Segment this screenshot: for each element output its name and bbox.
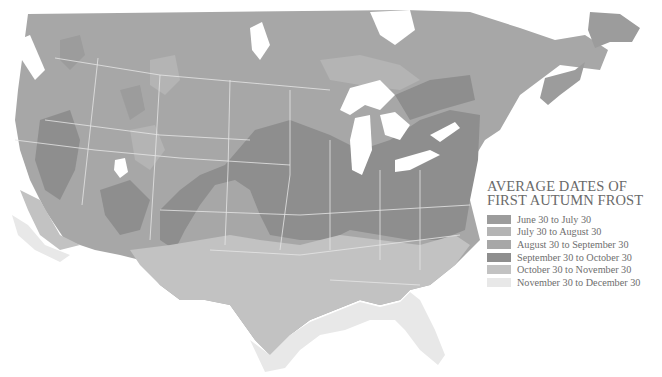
legend-swatch	[487, 265, 511, 274]
legend-title: AVERAGE DATES OF FIRST AUTUMN FROST	[487, 179, 662, 207]
legend-label: July 30 to August 30	[517, 226, 601, 237]
legend-swatch	[487, 278, 511, 287]
legend-label: August 30 to September 30	[517, 239, 629, 250]
legend-title-line1: AVERAGE DATES OF	[487, 179, 662, 193]
legend-item: June 30 to July 30	[487, 213, 662, 226]
legend-label: November 30 to December 30	[517, 277, 640, 288]
legend-item: October 30 to November 30	[487, 263, 662, 276]
legend-item: July 30 to August 30	[487, 226, 662, 239]
legend-swatch	[487, 253, 511, 262]
legend-item: November 30 to December 30	[487, 276, 662, 289]
legend-swatch	[487, 215, 511, 224]
legend-swatch	[487, 240, 511, 249]
legend-swatch	[487, 227, 511, 236]
legend: AVERAGE DATES OF FIRST AUTUMN FROST June…	[487, 179, 662, 289]
legend-label: October 30 to November 30	[517, 264, 631, 275]
legend-title-line2: FIRST AUTUMN FROST	[487, 193, 662, 207]
legend-item: September 30 to October 30	[487, 251, 662, 264]
legend-label: June 30 to July 30	[517, 214, 591, 225]
legend-label: September 30 to October 30	[517, 252, 632, 263]
legend-item: August 30 to September 30	[487, 238, 662, 251]
